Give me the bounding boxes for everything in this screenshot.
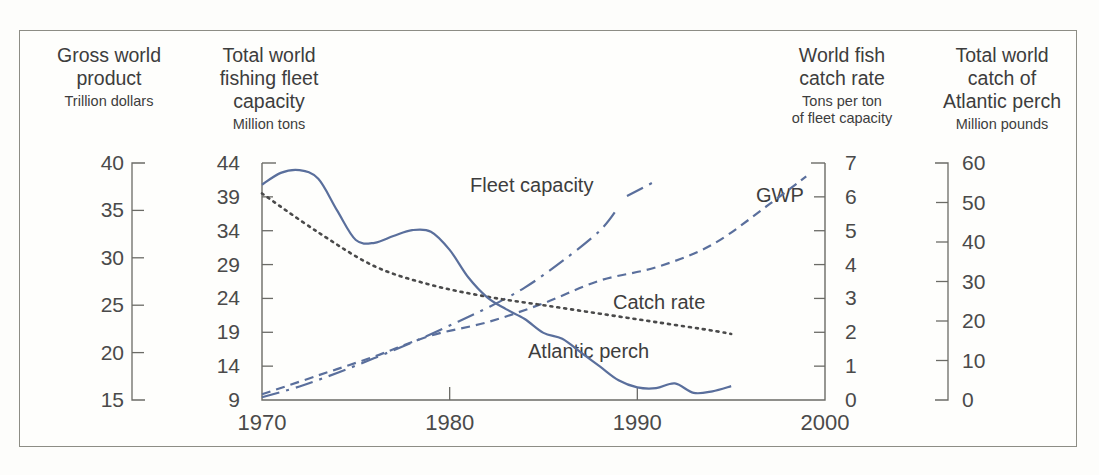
fleet-title-line1: Total world <box>184 44 354 67</box>
series-label-fleet-capacity: Fleet capacity <box>470 174 593 197</box>
fleet-axis-label-34: 34 <box>217 220 240 241</box>
x-tick-label-1970: 1970 <box>222 410 302 436</box>
gwp-title-line2: product <box>34 67 184 90</box>
fleet-axis-label-24: 24 <box>217 287 240 308</box>
x-tick-label-1980: 1980 <box>410 410 490 436</box>
perch-axis-label-50: 50 <box>962 192 985 213</box>
catchrate-axis-label-3: 3 <box>845 287 857 308</box>
fleet-axis-label-9: 9 <box>228 389 240 410</box>
gwp-axis-label-20: 20 <box>101 342 124 363</box>
gwp-axis-label-35: 35 <box>101 199 124 220</box>
catch-units-line1: Tons per ton <box>762 93 922 110</box>
series-label-atlantic-perch: Atlantic perch <box>528 340 649 363</box>
catch-title-line1: World fish <box>762 44 922 67</box>
catchrate-axis-label-0: 0 <box>845 389 857 410</box>
fleet-axis-label-44: 44 <box>217 152 240 173</box>
perch-axis-label-10: 10 <box>962 350 985 371</box>
gwp-axis-label-40: 40 <box>101 152 124 173</box>
gwp-axis-label-30: 30 <box>101 247 124 268</box>
axis-title-gross-world-product: Gross world product Trillion dollars <box>34 44 184 110</box>
gwp-axis-label-15: 15 <box>101 389 124 410</box>
series-label-catch-rate: Catch rate <box>613 291 705 314</box>
catchrate-axis-label-7: 7 <box>845 152 857 173</box>
x-tick-label-1990: 1990 <box>597 410 677 436</box>
gwp-title-line1: Gross world <box>34 44 184 67</box>
perch-axis-label-60: 60 <box>962 152 985 173</box>
catch-units-line2: of fleet capacity <box>762 110 922 127</box>
catchrate-axis-label-6: 6 <box>845 186 857 207</box>
gwp-axis-label-25: 25 <box>101 294 124 315</box>
fleet-axis-label-19: 19 <box>217 321 240 342</box>
perch-axis-label-30: 30 <box>962 271 985 292</box>
fleet-title-line2: fishing fleet <box>184 67 354 90</box>
catch-title-line2: catch rate <box>762 67 922 90</box>
gwp-units: Trillion dollars <box>34 93 184 110</box>
axis-title-world-fish-catch-rate: World fish catch rate Tons per ton of fl… <box>762 44 922 127</box>
fleet-axis-label-14: 14 <box>217 355 240 376</box>
fleet-axis-label-29: 29 <box>217 254 240 275</box>
catchrate-axis-label-2: 2 <box>845 321 857 342</box>
x-tick-label-2000: 2000 <box>785 410 865 436</box>
fleet-axis-label-39: 39 <box>217 186 240 207</box>
perch-axis-label-20: 20 <box>962 310 985 331</box>
axis-title-atlantic-perch-catch: Total world catch of Atlantic perch Mill… <box>922 44 1082 133</box>
catchrate-axis-label-4: 4 <box>845 254 857 275</box>
perch-axis-label-40: 40 <box>962 231 985 252</box>
fleet-units: Million tons <box>184 116 354 133</box>
catchrate-axis-label-1: 1 <box>845 355 857 376</box>
perch-axis-label-0: 0 <box>962 389 974 410</box>
perch-title-line2: catch of <box>922 67 1082 90</box>
perch-title-line1: Total world <box>922 44 1082 67</box>
perch-units: Million pounds <box>922 116 1082 133</box>
axis-title-fishing-fleet-capacity: Total world fishing fleet capacity Milli… <box>184 44 354 133</box>
catchrate-axis-label-5: 5 <box>845 220 857 241</box>
figure-container: Gross world product Trillion dollars Tot… <box>0 0 1099 475</box>
series-label-gwp: GWP <box>756 184 804 207</box>
fleet-title-line3: capacity <box>184 90 354 113</box>
perch-title-line3: Atlantic perch <box>922 90 1082 113</box>
